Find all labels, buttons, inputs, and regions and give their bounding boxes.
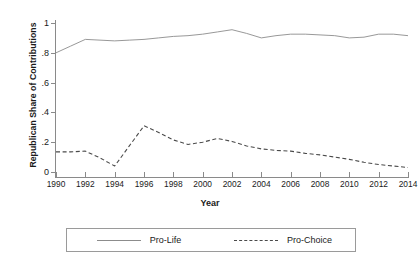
y-tick-label: 0 [44, 167, 49, 177]
x-tick-label: 1992 [76, 179, 95, 189]
x-tick-label: 2014 [399, 179, 418, 189]
y-tick-label: .8 [41, 48, 49, 58]
x-tick-label: 1998 [164, 179, 183, 189]
x-tick [291, 172, 292, 177]
x-axis-line [55, 177, 409, 178]
x-tick-label: 2012 [369, 179, 388, 189]
legend-item-pro-choice[interactable]: Pro-Choice [211, 235, 355, 245]
legend-swatch-solid-icon [97, 240, 141, 241]
x-tick [203, 172, 204, 177]
x-tick-label: 2008 [311, 179, 330, 189]
x-tick [85, 172, 86, 177]
x-tick [232, 172, 233, 177]
series-line-pro-life [56, 30, 408, 53]
x-axis-title: Year [0, 198, 420, 208]
x-tick [379, 172, 380, 177]
x-tick [349, 172, 350, 177]
chart-legend: Pro-Life Pro-Choice [66, 228, 356, 252]
x-tick-label: 1990 [47, 179, 66, 189]
y-axis-title: Republican Share of Contributions [28, 5, 38, 185]
y-tick-label: .2 [41, 137, 49, 147]
legend-swatch-dashed-icon [234, 240, 278, 241]
x-tick-label: 1994 [105, 179, 124, 189]
y-tick-label: .6 [41, 78, 49, 88]
legend-label: Pro-Choice [287, 235, 332, 245]
x-tick [56, 172, 57, 177]
x-tick-label: 2004 [252, 179, 271, 189]
x-tick-label: 1996 [135, 179, 154, 189]
legend-label: Pro-Life [150, 235, 182, 245]
y-tick-label: 1 [44, 18, 49, 28]
y-tick-label: .4 [41, 107, 49, 117]
x-tick [115, 172, 116, 177]
x-tick-label: 2010 [340, 179, 359, 189]
chart-figure: Republican Share of Contributions 0.2.4.… [0, 0, 420, 259]
x-tick-label: 2006 [281, 179, 300, 189]
x-tick [320, 172, 321, 177]
x-tick [173, 172, 174, 177]
x-tick-label: 2000 [193, 179, 212, 189]
series-line-pro-choice [56, 126, 408, 168]
x-tick [261, 172, 262, 177]
plot-area: 0.2.4.6.81 19901992199419961998200020022… [56, 23, 408, 172]
x-tick [408, 172, 409, 177]
x-tick-label: 2002 [223, 179, 242, 189]
legend-item-pro-life[interactable]: Pro-Life [67, 235, 211, 245]
series-lines [56, 23, 408, 172]
x-tick [144, 172, 145, 177]
